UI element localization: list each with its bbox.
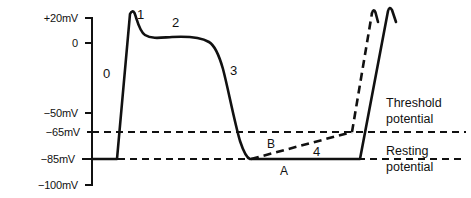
resting-potential-label-line1: Resting bbox=[386, 144, 428, 159]
axis-label-minus-50mv: −50mV bbox=[0, 108, 78, 119]
point-label-b: B bbox=[267, 138, 275, 150]
threshold-potential-label-line2: potential bbox=[386, 112, 433, 127]
axis-label-minus-65mv: −65mV bbox=[0, 127, 80, 138]
phase-label-4: 4 bbox=[313, 145, 320, 158]
axis-label-plus-20mv: +20mV bbox=[0, 13, 78, 24]
phase-label-0: 0 bbox=[103, 67, 110, 80]
axis-label-minus-100mv: −100mV bbox=[0, 180, 78, 191]
threshold-potential-label-line1: Threshold bbox=[386, 96, 442, 111]
axis-label-minus-85mv: −85mV bbox=[0, 154, 75, 165]
phase-label-1: 1 bbox=[137, 8, 144, 21]
phase-label-2: 2 bbox=[172, 16, 179, 29]
axis-label-zero: 0 bbox=[0, 38, 78, 49]
action-potential-figure: +20mV 0 −50mV −65mV −85mV −100mV 0 1 2 3… bbox=[0, 0, 471, 198]
phase-label-3: 3 bbox=[230, 64, 237, 77]
point-label-a: A bbox=[280, 165, 288, 177]
action-potential-trace bbox=[92, 8, 396, 159]
dashed-peak-tip bbox=[372, 10, 378, 22]
resting-potential-label-line2: potential bbox=[386, 160, 433, 175]
y-axis-ticks bbox=[82, 18, 92, 185]
